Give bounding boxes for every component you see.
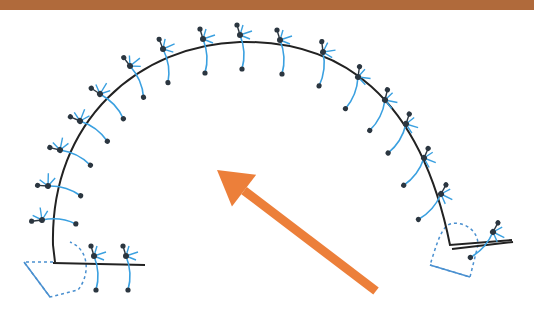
dashed-fan-right <box>430 223 478 277</box>
molecule-glyph <box>197 26 215 75</box>
molecule-glyph <box>46 133 97 173</box>
molecule-glyph <box>88 243 106 292</box>
molecule-glyph <box>88 77 133 126</box>
dashed-fan-left <box>24 242 86 297</box>
molecule-glyph <box>34 170 86 203</box>
molecule-glyph <box>311 39 337 91</box>
direction-arrow-icon <box>217 170 376 291</box>
molecule-glyph <box>120 243 138 292</box>
diagram-canvas <box>0 0 534 318</box>
molecule-group <box>29 22 511 292</box>
baseline-left <box>53 263 145 265</box>
molecule-glyph <box>120 50 153 102</box>
molecule-glyph <box>380 110 423 160</box>
molecule-glyph <box>337 63 374 115</box>
molecule-glyph <box>234 22 252 71</box>
molecule-glyph <box>67 104 116 149</box>
molecule-glyph <box>274 27 292 76</box>
